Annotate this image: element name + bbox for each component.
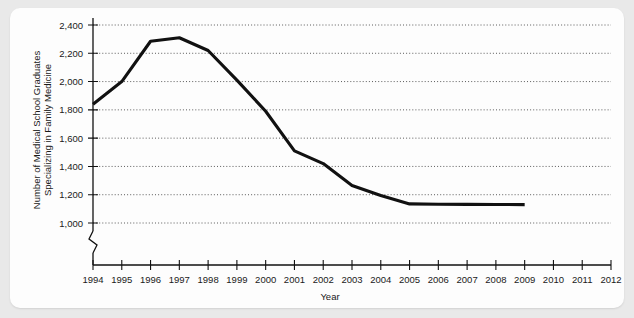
- x-axis-tick-label: 2001: [284, 274, 305, 285]
- y-axis-tick-label: 2,000: [59, 76, 83, 87]
- x-axis-tick-label: 2012: [600, 274, 621, 285]
- screenshot-root: 1,0001,2001,4001,6001,8002,0002,2002,400…: [0, 0, 634, 318]
- y-axis-break-symbol: [89, 231, 97, 253]
- y-axis-tick-label: 1,400: [59, 161, 83, 172]
- y-axis-tick-label: 2,400: [59, 20, 83, 31]
- x-axis-tick-label: 1998: [198, 274, 219, 285]
- x-axis-tick-label: 1995: [111, 274, 132, 285]
- y-axis-title-line1: Number of Medical School Graduates: [31, 51, 42, 210]
- x-axis-tick-label: 2010: [543, 274, 564, 285]
- x-axis-tick-label: 2004: [370, 274, 391, 285]
- x-axis-tick-label: 2011: [572, 274, 592, 285]
- line-chart: 1,0001,2001,4001,6001,8002,0002,2002,400…: [10, 8, 624, 308]
- x-axis-tick-label: 2003: [341, 274, 362, 285]
- x-axis-tick-label: 1994: [82, 274, 103, 285]
- x-axis-tick-label: 1996: [140, 274, 161, 285]
- y-axis-tick-label: 1,800: [59, 104, 83, 115]
- chart-card: 1,0001,2001,4001,6001,8002,0002,2002,400…: [10, 8, 624, 308]
- x-axis-tick-label: 2006: [428, 274, 449, 285]
- y-axis-tick-label: 1,000: [59, 218, 83, 229]
- x-axis-tick-label: 2008: [485, 274, 506, 285]
- x-axis-tick-label: 1999: [226, 274, 247, 285]
- y-axis-tick-label: 1,600: [59, 133, 83, 144]
- x-axis-tick-label: 2009: [514, 274, 535, 285]
- y-axis-tick-label: 2,200: [59, 48, 83, 59]
- x-axis-tick-label: 2007: [457, 274, 478, 285]
- x-axis-tick-label: 2005: [399, 274, 420, 285]
- x-axis-tick-label: 2000: [255, 274, 276, 285]
- x-axis-tick-label: 1997: [169, 274, 190, 285]
- x-axis-title: Year: [320, 291, 339, 302]
- data-series-line: [93, 38, 525, 205]
- y-axis-title-line2: Specializing in Family Medicine: [42, 64, 53, 196]
- x-axis-tick-label: 2002: [313, 274, 334, 285]
- y-axis-tick-label: 1,200: [59, 189, 83, 200]
